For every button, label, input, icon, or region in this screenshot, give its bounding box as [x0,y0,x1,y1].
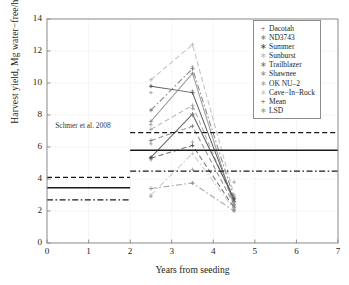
legend-item-2: ∗Summer [258,42,315,51]
legend-item-5: ∗Shawnee [258,69,315,78]
x-tick-label-6: 6 [285,246,307,256]
y-tick-label-5: 10 [16,77,42,87]
legend-marker-icon: ∗ [258,42,268,51]
y-tick-label-4: 8 [16,109,42,119]
legend-marker-icon: ∗ [258,106,268,115]
x-tick-label-0: 0 [36,246,58,256]
x-tick-label-1: 1 [78,246,100,256]
y-tick-label-2: 4 [16,173,42,183]
legend-item-8: +Mean [258,97,315,106]
legend-label: Sunburst [268,51,296,60]
x-tick-label-5: 5 [244,246,266,256]
legend-item-6: ∗OK NU–2 [258,79,315,88]
legend-item-1: ∗ND3743 [258,33,315,42]
legend-label: LSD [268,106,283,115]
legend-label: Summer [268,42,294,51]
legend-marker-icon: ∗ [258,88,268,97]
legend-item-0: +Dacotah [258,24,315,33]
legend-label: Dacotah [268,24,294,33]
x-axis-label: Years from seeding [47,264,338,275]
legend-item-4: ∗Trailblazer [258,60,315,69]
legend-marker-icon: + [258,24,268,33]
legend-item-7: ∗Cave−In−Rock [258,88,315,97]
x-tick-label-2: 2 [119,246,141,256]
y-tick-label-3: 6 [16,141,42,151]
legend-marker-icon: ∗ [258,69,268,78]
x-tick-label-3: 3 [161,246,183,256]
legend-label: Shawnee [268,69,296,78]
x-tick-label-7: 7 [327,246,349,256]
legend-marker-icon: ∗ [258,33,268,42]
figure: Harvest yield, Mg water−free/ha Years fr… [0,0,349,285]
annotation-0: Schmer et al. 2008 [55,121,110,130]
y-tick-label-6: 12 [16,45,42,55]
legend-marker-icon: ∗ [258,51,268,60]
legend-label: Cave−In−Rock [268,88,315,97]
legend-label: Trailblazer [268,60,302,69]
legend-label: Mean [268,97,286,106]
legend-label: OK NU–2 [268,79,300,88]
y-tick-label-7: 14 [16,13,42,23]
x-tick-label-4: 4 [202,246,224,256]
legend-marker-icon: ∗ [258,60,268,69]
y-tick-label-1: 2 [16,205,42,215]
legend-item-9: ∗LSD [258,106,315,115]
legend-marker-icon: + [258,97,268,106]
legend-label: ND3743 [268,33,295,42]
chart-legend: +Dacotah∗ND3743∗Summer∗Sunburst∗Trailbla… [253,20,321,119]
legend-item-3: ∗Sunburst [258,51,315,60]
legend-marker-icon: ∗ [258,79,268,88]
